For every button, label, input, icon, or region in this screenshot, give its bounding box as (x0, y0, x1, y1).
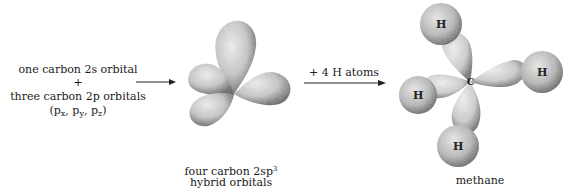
bond-lobe-right (470, 60, 526, 87)
methane-figure: H H H H C (390, 0, 570, 180)
carbon-label: C (467, 77, 474, 87)
hybrid-caption-sup: 3 (273, 165, 277, 173)
reactant-plus: + (18, 76, 138, 90)
reactant-p-orbitals: (px, py, pz) (18, 104, 138, 121)
hydrogen-label-bottom: H (453, 140, 463, 153)
p-close: ) (102, 104, 106, 117)
hydrogen-label-right: H (537, 66, 547, 79)
arrow-1 (136, 77, 176, 87)
hybrid-caption-line2: hybrid orbitals (176, 176, 286, 190)
hydrogen-label-left: H (413, 89, 423, 102)
p-y: , p (65, 104, 79, 117)
p-open: (p (50, 104, 61, 117)
reactant-line-2s: one carbon 2s orbital (18, 63, 138, 77)
arrow-2 (304, 78, 386, 88)
reactant-line-2p: three carbon 2p orbitals (6, 90, 150, 104)
methane-caption: methane (440, 174, 520, 188)
p-z: , p (84, 104, 98, 117)
sp3-hybrid-orbitals-figure (172, 10, 302, 140)
hydrogen-label-top: H (436, 18, 446, 31)
hybrid-lobe-down (190, 93, 234, 126)
